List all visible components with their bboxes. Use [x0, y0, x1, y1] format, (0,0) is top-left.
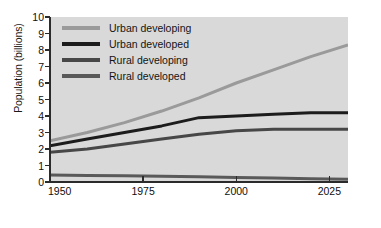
legend-item: Urban developed — [62, 36, 272, 52]
x-axis-tick-label: 1975 — [131, 186, 154, 197]
legend-color-swatch — [62, 26, 100, 30]
y-axis-tick-label: 9 — [22, 29, 44, 40]
legend-color-swatch — [62, 42, 100, 46]
legend-label: Rural developed — [109, 71, 185, 82]
y-axis-tick-label: 2 — [22, 144, 44, 155]
legend-item: Rural developed — [62, 68, 272, 84]
x-axis-tick-label: 1950 — [48, 186, 71, 197]
y-axis-tick-label: 0 — [22, 177, 44, 188]
y-axis-tick-label: 8 — [22, 45, 44, 56]
y-axis-tick-label: 10 — [22, 12, 44, 23]
legend-color-swatch — [62, 58, 100, 62]
x-axis-tick-label: 2000 — [225, 186, 248, 197]
legend-label: Urban developing — [109, 23, 191, 34]
legend-item: Rural developing — [62, 52, 272, 68]
chart-legend: Urban developingUrban developedRural dev… — [62, 20, 272, 84]
y-axis-tick-labels: 012345678910 — [18, 17, 44, 182]
legend-color-swatch — [62, 74, 100, 78]
y-axis-tick-label: 5 — [22, 95, 44, 106]
legend-label: Urban developed — [109, 39, 189, 50]
y-axis-tick-label: 1 — [22, 161, 44, 172]
y-axis-tick-label: 6 — [22, 78, 44, 89]
y-axis-tick-label: 3 — [22, 128, 44, 139]
series-line — [50, 175, 348, 179]
x-axis-tick-labels: 1950197520002025 — [50, 186, 370, 202]
legend-label: Rural developing — [109, 55, 188, 66]
x-axis-tick-label: 2025 — [318, 186, 341, 197]
legend-item: Urban developing — [62, 20, 272, 36]
y-axis-tick-label: 4 — [22, 111, 44, 122]
y-axis-tick-label: 7 — [22, 62, 44, 73]
series-line — [50, 129, 348, 152]
population-line-chart: Population (billions) 012345678910 19501… — [0, 0, 381, 228]
